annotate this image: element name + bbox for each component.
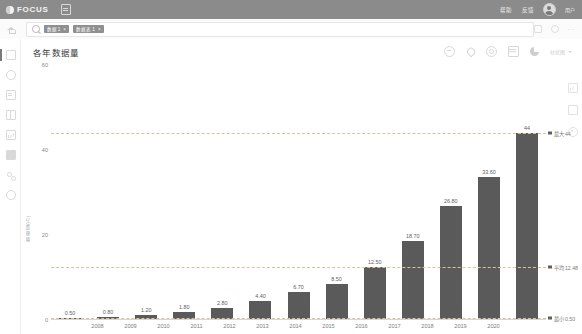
reference-label-avg: 平均 12.48 <box>548 263 578 270</box>
x-tick-label: 2009 <box>114 320 147 334</box>
sidebar-item-grid[interactable] <box>0 105 21 125</box>
square-icon[interactable] <box>534 25 542 33</box>
sidebar-item-chart[interactable] <box>0 125 21 145</box>
bar-value-label: 2.80 <box>217 300 228 306</box>
bar-value-label: 4.40 <box>255 293 266 299</box>
y-tick-label: 60 <box>42 62 48 68</box>
x-tick-label: 2020 <box>477 320 510 334</box>
chart-card: 各年数据量 柱状图 数据量(万) 0204060 0.500.8 <box>21 39 582 334</box>
x-tick-label: 2011 <box>180 320 213 334</box>
header-link-help[interactable]: 帮助 <box>500 6 512 14</box>
app-logo[interactable]: FOCUS <box>0 5 49 14</box>
bar-value-label: 1.80 <box>179 304 190 310</box>
close-icon[interactable]: × <box>63 27 66 32</box>
reference-line-min <box>51 318 546 319</box>
y-tick-label: 20 <box>42 232 48 238</box>
bar-slot[interactable]: 2.80 <box>203 65 241 320</box>
table-icon[interactable] <box>508 46 519 57</box>
bar-slot[interactable]: 33.60 <box>470 65 508 320</box>
sidebar-item-database[interactable] <box>0 145 21 165</box>
legend-swatch <box>548 316 552 320</box>
bar-value-label: 6.70 <box>293 284 304 290</box>
focus-circle-logo-icon <box>6 6 14 14</box>
refresh-icon[interactable] <box>486 46 497 57</box>
sidebar-item-home[interactable] <box>0 45 21 65</box>
bar-value-label: 1.20 <box>141 307 152 313</box>
bar-slot[interactable]: 0.80 <box>89 65 127 320</box>
bar-slot[interactable]: 1.20 <box>127 65 165 320</box>
bar-slot[interactable]: 18.70 <box>394 65 432 320</box>
filter-chip-label: 数据 1 <box>47 26 61 32</box>
header-link-feedback[interactable]: 反馈 <box>522 6 534 14</box>
bar-value-label: 44 <box>524 125 530 131</box>
bar[interactable]: 44 <box>516 133 538 320</box>
bar[interactable]: 12.50 <box>364 267 386 320</box>
x-tick-label: 2018 <box>411 320 444 334</box>
avatar[interactable] <box>543 3 556 16</box>
bar[interactable]: 18.70 <box>402 241 424 320</box>
x-tick-label: 2010 <box>147 320 180 334</box>
bar[interactable]: 8.50 <box>326 284 348 320</box>
legend-swatch <box>548 131 552 135</box>
gear-icon <box>6 190 16 200</box>
circle-icon[interactable] <box>551 25 559 33</box>
bar-slot[interactable]: 8.50 <box>318 65 356 320</box>
bar-slot[interactable]: 26.80 <box>432 65 470 320</box>
app-root: FOCUS 帮助 反馈 用户 数据 1 × 数据表 1 × <box>0 0 582 334</box>
circle-icon <box>6 70 16 80</box>
header-right-group: 帮助 反馈 用户 <box>500 3 582 16</box>
sidebar-item-settings[interactable] <box>0 185 21 205</box>
bar-series: 0.500.801.201.802.804.406.708.5012.5018.… <box>51 65 546 320</box>
bar-slot[interactable]: 0.50 <box>51 65 89 320</box>
sidebar-item-share[interactable] <box>0 165 21 185</box>
bar-slot[interactable]: 1.80 <box>165 65 203 320</box>
chart-type-label: 柱状图 <box>550 48 565 55</box>
x-tick-label: 2016 <box>345 320 378 334</box>
legend-swatch <box>548 265 552 269</box>
search-toolbar-right <box>534 25 582 33</box>
bar-slot[interactable]: 12.50 <box>356 65 394 320</box>
filter-chip-1[interactable]: 数据表 1 × <box>73 25 104 33</box>
minus-circle-icon[interactable] <box>444 46 455 57</box>
close-icon[interactable]: × <box>98 27 101 32</box>
filter-chip-0[interactable]: 数据 1 × <box>44 25 70 33</box>
bar[interactable]: 33.60 <box>478 177 500 320</box>
pie-chart-icon[interactable] <box>530 47 539 56</box>
sidebar-item-document[interactable] <box>0 85 21 105</box>
reference-label-text: 最大 44 <box>554 130 571 137</box>
reference-label-max: 最大 44 <box>548 130 571 137</box>
sidebar-item-circle[interactable] <box>0 65 21 85</box>
search-icon <box>32 25 40 33</box>
search-input[interactable]: 数据 1 × 数据表 1 × <box>26 22 534 37</box>
bar-slot[interactable]: 44 <box>508 65 546 320</box>
reference-line-avg <box>51 267 546 268</box>
bar[interactable]: 6.70 <box>288 292 310 320</box>
y-tick-label: 0 <box>45 317 48 323</box>
reference-label-text: 平均 12.48 <box>554 263 578 270</box>
bar[interactable]: 26.80 <box>440 206 462 320</box>
x-tick-label: 2012 <box>213 320 246 334</box>
bar-value-label: 0.50 <box>65 310 76 316</box>
x-tick-label: 2019 <box>444 320 477 334</box>
bar-value-label: 18.70 <box>406 233 420 239</box>
chart-grid-area: 0.500.801.201.802.804.406.708.5012.5018.… <box>51 65 546 334</box>
bar-slot[interactable]: 6.70 <box>279 65 317 320</box>
chart-type-select[interactable]: 柱状图 <box>550 48 572 55</box>
pin-icon[interactable] <box>466 47 475 56</box>
bar-value-label: 12.50 <box>368 259 382 265</box>
header-user-name[interactable]: 用户 <box>565 6 575 13</box>
database-icon <box>6 150 16 160</box>
document-icon[interactable] <box>61 4 71 15</box>
more-dots-icon[interactable] <box>568 26 574 32</box>
square-icon <box>6 50 16 60</box>
chart-plot-area: 数据量(万) 0204060 0.500.801.201.802.804.406… <box>21 65 582 334</box>
bar-value-label: 8.50 <box>331 276 342 282</box>
page-title: 各年数据量 <box>33 46 80 58</box>
bar-slot[interactable]: 4.40 <box>241 65 279 320</box>
reference-line-max <box>51 133 546 134</box>
x-tick-label: 2017 <box>378 320 411 334</box>
home-icon[interactable] <box>7 25 16 33</box>
app-header: FOCUS 帮助 反馈 用户 <box>0 0 582 19</box>
bar-chart-icon <box>6 130 16 140</box>
grid-icon <box>6 110 16 120</box>
